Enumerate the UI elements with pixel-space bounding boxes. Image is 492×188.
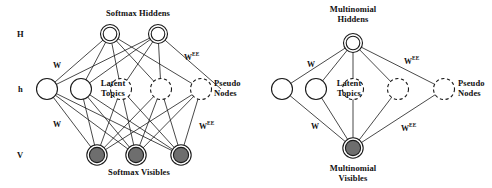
left-latent-topic-node-1 — [37, 79, 58, 100]
right-latent-topics-line1: Latent — [337, 78, 362, 88]
right-weight-top-pseudo-base: W — [404, 57, 412, 66]
right-panel-bottom-title: Multinomial Visibles — [330, 164, 376, 183]
right-top-title-line1: Multinomial — [330, 4, 376, 14]
right-weight-top-pseudo-sup: EE — [412, 55, 419, 61]
right-weight-bottom-pseudo-label: WEE — [401, 122, 416, 133]
left-weight-bottom-pseudo-label: WEE — [199, 120, 214, 131]
right-weight-bottom-pseudo-base: W — [401, 124, 409, 133]
axis-label-hidden: H — [17, 29, 24, 39]
right-panel-top-title: Multinomial Hiddens — [330, 5, 376, 24]
left-weight-top-pseudo-label: WEE — [184, 51, 199, 62]
left-panel-bottom-title: Softmax Visibles — [108, 168, 170, 178]
right-pseudo-node-3 — [434, 79, 455, 100]
network-graphics: .edge{stroke:#1a1a1a;stroke-width:0.8;fi… — [0, 0, 492, 188]
right-pseudo-nodes-line2: Nodes — [458, 88, 481, 98]
right-pseudo-nodes-label: Pseudo Nodes — [458, 79, 485, 98]
right-bottom-title-line1: Multinomial — [330, 163, 376, 173]
right-latent-topics-label: Latent Topics — [337, 79, 362, 98]
left-weight-bottom-pseudo-sup: EE — [207, 120, 214, 126]
figure-canvas: .edge{stroke:#1a1a1a;stroke-width:0.8;fi… — [0, 0, 492, 188]
right-pseudo-node-2 — [388, 79, 409, 100]
left-pseudo-nodes-line2: Nodes — [214, 88, 237, 98]
left-weight-top-pseudo-base: W — [184, 53, 192, 62]
left-weight-bottom-pseudo-base: W — [199, 122, 207, 131]
right-latent-topic-node-2 — [306, 79, 327, 100]
left-latent-topic-node-2 — [71, 79, 92, 100]
right-bottom-title-line2: Visibles — [339, 173, 368, 183]
left-weight-top-label: W — [53, 61, 61, 70]
left-pseudo-node-3 — [191, 79, 212, 100]
right-latent-topic-node-1 — [272, 79, 293, 100]
right-weight-bottom-pseudo-sup: EE — [409, 122, 416, 128]
right-weight-top-pseudo-label: WEE — [404, 55, 419, 66]
right-pseudo-nodes-line1: Pseudo — [458, 78, 485, 88]
right-weight-bottom-label: W — [311, 122, 319, 131]
right-top-title-line2: Hiddens — [338, 14, 369, 24]
left-pseudo-nodes-label: Pseudo Nodes — [214, 79, 241, 98]
left-visible-node-1 — [87, 145, 107, 165]
left-hidden-node-2 — [149, 25, 168, 44]
left-visible-node-3 — [171, 145, 191, 165]
axis-label-visible: V — [17, 150, 23, 160]
left-latent-topics-line1: Latent — [101, 78, 126, 88]
axis-label-latent: h — [18, 84, 23, 94]
left-visible-node-2 — [126, 145, 146, 165]
left-pseudo-node-2 — [151, 79, 172, 100]
left-weight-bottom-label: W — [53, 120, 61, 129]
right-latent-topics-line2: Topics — [337, 88, 361, 98]
right-hidden-node-1 — [344, 34, 363, 53]
left-latent-topics-label: Latent Topics — [101, 79, 126, 98]
left-latent-topics-line2: Topics — [101, 88, 125, 98]
left-weight-top-pseudo-sup: EE — [192, 51, 199, 57]
left-panel-top-title: Softmax Hiddens — [106, 9, 170, 19]
right-visible-node-1 — [343, 138, 363, 158]
left-pseudo-nodes-line1: Pseudo — [214, 78, 241, 88]
right-weight-top-label: W — [307, 60, 315, 69]
right-panel-edges-middle-to-visible — [282, 89, 444, 148]
left-hidden-node-1 — [101, 25, 120, 44]
